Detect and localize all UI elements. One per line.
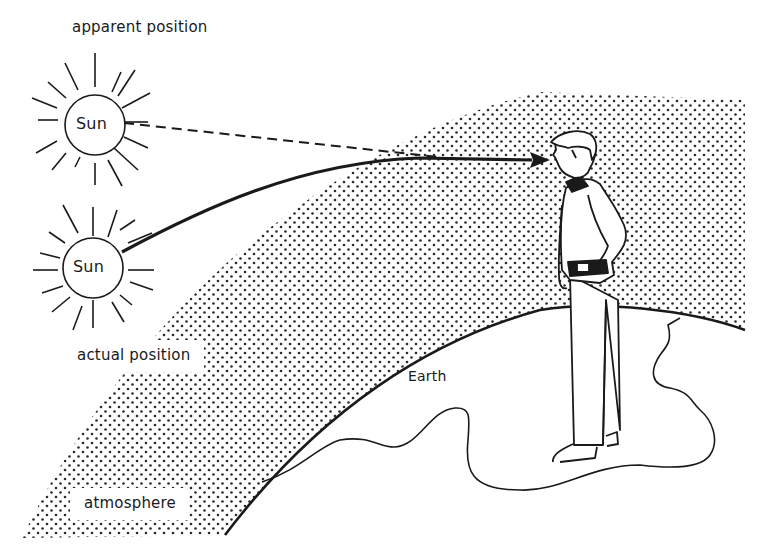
- actual-position-label: actual position: [77, 346, 190, 364]
- apparent-position-label: apparent position: [72, 18, 207, 36]
- apparent-sun-label: Sun: [76, 114, 107, 133]
- earth-label: Earth: [408, 368, 447, 384]
- actual-sun-label: Sun: [73, 257, 104, 276]
- refraction-diagram: [0, 0, 761, 555]
- atmosphere-label: atmosphere: [84, 494, 176, 512]
